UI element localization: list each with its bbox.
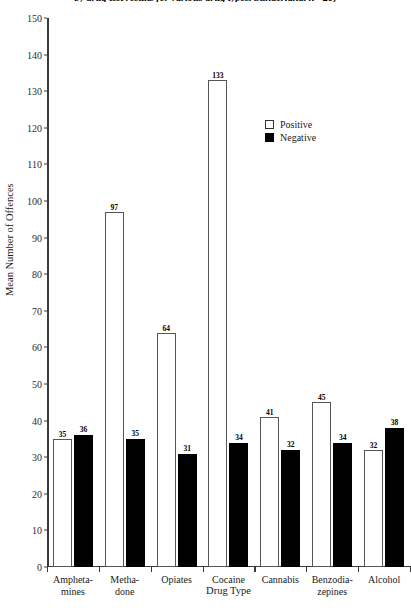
- bar-value-label: 64: [162, 324, 170, 333]
- bar-value-label: 41: [266, 408, 274, 417]
- bar-value-label: 35: [59, 430, 67, 439]
- y-axis-title: Mean Number of Offences: [4, 183, 15, 296]
- bar-value-label: 34: [235, 433, 243, 442]
- x-axis-category-label-line: Alcohol: [358, 574, 410, 586]
- bar-positive: 64: [157, 333, 176, 567]
- y-axis-tick-label: 30: [32, 452, 42, 463]
- y-axis-tick-label: 20: [32, 488, 42, 499]
- x-axis-category-label-line: Ampheta-: [47, 574, 99, 586]
- bar-value-label: 34: [339, 433, 347, 442]
- bar-value-label: 32: [287, 440, 295, 449]
- y-axis-tick-label: 110: [27, 159, 42, 170]
- bar-value-label: 36: [80, 425, 88, 434]
- bar-chart: by drug test results for various drug ty…: [0, 0, 411, 614]
- legend-swatch-filled-square: [265, 133, 274, 142]
- y-axis-tick-label: 10: [32, 525, 42, 536]
- bar-positive: 45: [312, 402, 331, 567]
- y-axis-tick-label: 140: [27, 49, 42, 60]
- y-axis-tick-label: 120: [27, 122, 42, 133]
- y-axis-tick-label: 80: [32, 269, 42, 280]
- legend-label: Positive: [280, 119, 312, 130]
- y-axis-tick-label: 150: [27, 13, 42, 24]
- bar-value-label: 32: [370, 441, 378, 450]
- legend-label: Negative: [280, 132, 316, 143]
- bar-positive: 32: [364, 450, 383, 567]
- bar-group: 3536Ampheta-mines: [47, 18, 99, 567]
- bar-negative: 34: [229, 443, 248, 567]
- bar-positive: 133: [208, 80, 227, 567]
- bar-group: 3238Alcohol: [358, 18, 410, 567]
- bar-value-label: 45: [318, 393, 326, 402]
- bar-negative: 32: [281, 450, 300, 567]
- bar-value-label: 97: [111, 203, 119, 212]
- bar-negative: 35: [126, 439, 145, 567]
- legend-swatch-open-square: [265, 120, 274, 129]
- bar-positive: 97: [105, 212, 124, 567]
- x-axis-category-label-line: Opiates: [151, 574, 203, 586]
- x-axis-title: Drug Type: [47, 585, 410, 596]
- bar-group: 4534Benzodia-zepines: [306, 18, 358, 567]
- x-axis-category-label: Cannabis: [254, 574, 306, 586]
- bar-group: 6431Opiates: [151, 18, 203, 567]
- bar-value-label: 35: [132, 429, 140, 438]
- y-axis-tick-label: 130: [27, 86, 42, 97]
- legend-item: Positive: [265, 118, 316, 131]
- bar-positive: 35: [53, 439, 72, 567]
- x-axis-category-label: Cocaine: [203, 574, 255, 586]
- bar-negative: 38: [385, 428, 404, 567]
- y-axis-tick-label: 0: [37, 562, 42, 573]
- bar-group: 9735Metha-done: [99, 18, 151, 567]
- bar-value-label: 133: [212, 71, 223, 80]
- chart-title: by drug test results for various drug ty…: [0, 0, 411, 2]
- y-axis-tick-label: 60: [32, 342, 42, 353]
- bar-value-label: 31: [183, 444, 191, 453]
- y-axis-tick-label: 40: [32, 415, 42, 426]
- plot-area: 0102030405060708090100110120130140150353…: [47, 18, 410, 567]
- y-axis-tick-label: 50: [32, 379, 42, 390]
- bar-group: 4132Cannabis: [254, 18, 306, 567]
- y-axis-tick-label: 90: [32, 232, 42, 243]
- bar-negative: 34: [333, 443, 352, 567]
- x-axis-category-label: Alcohol: [358, 574, 410, 586]
- y-axis-tick-label: 100: [27, 196, 42, 207]
- bar-negative: 36: [74, 435, 93, 567]
- legend-item: Negative: [265, 131, 316, 144]
- y-axis-tick-label: 70: [32, 305, 42, 316]
- bar-group: 13334Cocaine: [203, 18, 255, 567]
- bar-value-label: 38: [391, 418, 399, 427]
- x-axis-category-label-line: Cocaine: [203, 574, 255, 586]
- chart-legend: PositiveNegative: [265, 118, 316, 144]
- x-axis-category-label-line: Cannabis: [254, 574, 306, 586]
- x-axis-category-label: Opiates: [151, 574, 203, 586]
- x-axis-category-label-line: Metha-: [99, 574, 151, 586]
- x-axis-category-label-line: Benzodia-: [306, 574, 358, 586]
- bar-positive: 41: [260, 417, 279, 567]
- bar-negative: 31: [178, 454, 197, 567]
- x-axis-tick-mark: [47, 566, 48, 572]
